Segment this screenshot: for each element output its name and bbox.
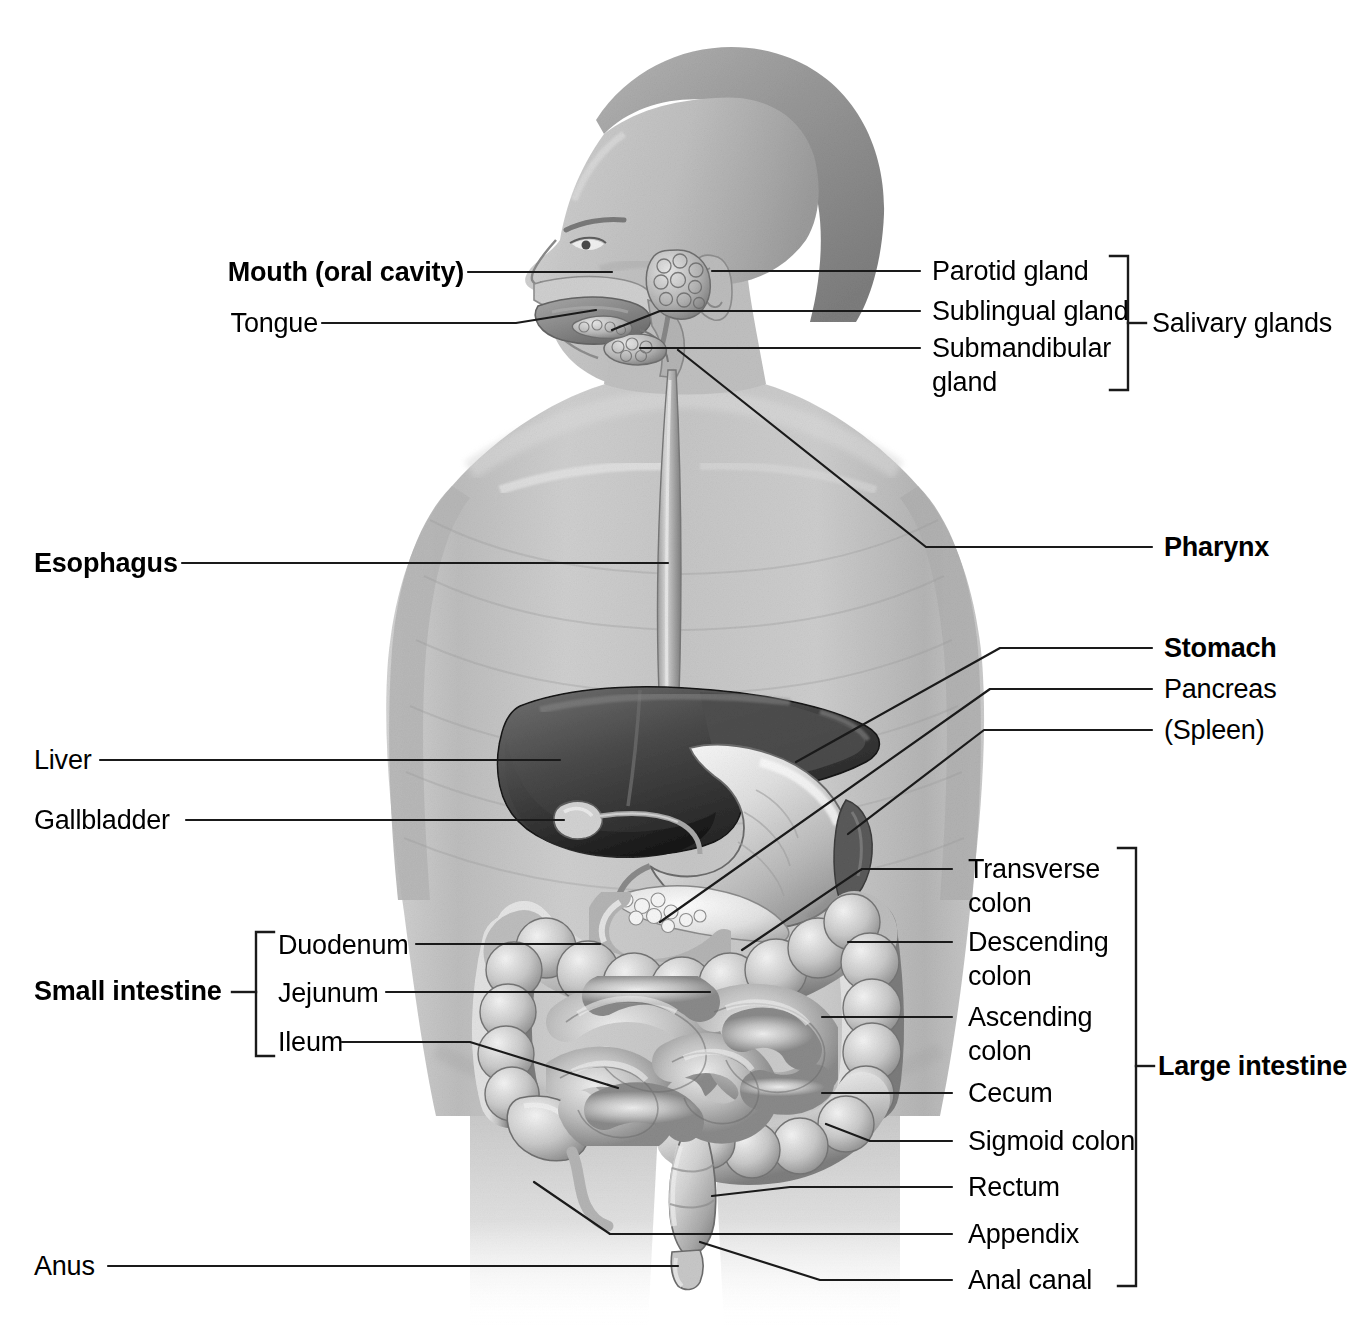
label-rectum: Rectum: [968, 1170, 1060, 1204]
label-anus: Anus: [34, 1249, 95, 1283]
label-gallbladder: Gallbladder: [34, 803, 170, 837]
label-pharynx: Pharynx: [1164, 530, 1269, 564]
label-sigmoid-colon: Sigmoid colon: [968, 1124, 1135, 1158]
label-submandibular-gland: Submandibular gland: [932, 331, 1111, 399]
label-sublingual-gland: Sublingual gland: [932, 294, 1128, 328]
label-cecum: Cecum: [968, 1076, 1053, 1110]
label-duodenum: Duodenum: [278, 928, 409, 962]
label-mouth: Mouth (oral cavity): [228, 255, 464, 289]
label-jejunum: Jejunum: [278, 976, 379, 1010]
label-spleen: (Spleen): [1164, 713, 1264, 747]
label-appendix: Appendix: [968, 1217, 1079, 1251]
label-transverse-colon: Transverse colon: [968, 852, 1100, 920]
label-parotid-gland: Parotid gland: [932, 254, 1089, 288]
label-descending-colon: Descending colon: [968, 925, 1109, 993]
label-ileum: Ileum: [278, 1025, 343, 1059]
label-ascending-colon: Ascending colon: [968, 1000, 1092, 1068]
label-esophagus: Esophagus: [34, 546, 178, 580]
label-salivary-glands: Salivary glands: [1152, 306, 1332, 340]
anal-canal-shape: [671, 1250, 703, 1289]
anatomy-illustration: [0, 0, 1368, 1326]
bracket-large-intestine: [1118, 848, 1136, 1286]
label-stomach: Stomach: [1164, 631, 1277, 665]
bracket-small-intestine: [256, 932, 274, 1056]
label-pancreas: Pancreas: [1164, 672, 1276, 706]
label-liver: Liver: [34, 743, 92, 777]
label-anal-canal: Anal canal: [968, 1263, 1092, 1297]
label-small-intestine: Small intestine: [34, 974, 222, 1008]
digestive-system-figure: Mouth (oral cavity) Tongue Esophagus Liv…: [0, 0, 1368, 1326]
label-tongue: Tongue: [231, 306, 318, 340]
label-large-intestine: Large intestine: [1158, 1049, 1347, 1083]
